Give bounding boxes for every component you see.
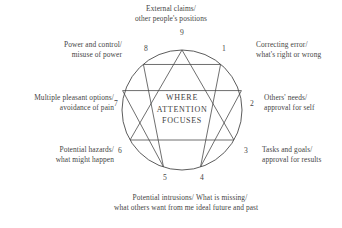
point-label-6-line-1: Potential hazards/	[8, 145, 114, 155]
point-label-4: What is missing/ ideal future and past	[196, 193, 300, 212]
point-label-9: External claims/ other people's position…	[96, 4, 246, 23]
point-label-3-line-1: Tasks and goals/	[262, 145, 342, 155]
point-label-5-line-1: Potential intrusions/	[76, 193, 194, 203]
point-numeral-8: 8	[140, 44, 152, 53]
point-label-2-line-1: Others' needs/	[264, 93, 342, 103]
center-caption-line-3: FOCUSES	[142, 115, 222, 127]
point-label-9-line-1: External claims/	[96, 4, 246, 14]
enneagram-diagram: WHERE ATTENTION FOCUSES 9 1 2 3 4 5 6 7 …	[0, 0, 342, 228]
point-label-7: Multiple pleasant options/ avoidance of …	[4, 93, 114, 112]
point-label-6: Potential hazards/ what might happen	[8, 145, 114, 164]
point-label-8: Power and control/ misuse of power	[26, 40, 122, 59]
point-label-5-line-2: what others want from me	[76, 203, 194, 213]
point-numeral-3: 3	[240, 146, 252, 155]
point-label-7-line-1: Multiple pleasant options/	[4, 93, 114, 103]
point-label-1: Correcting error/ what's right or wrong	[256, 40, 342, 59]
point-numeral-6: 6	[114, 146, 126, 155]
point-label-3: Tasks and goals/ approval for results	[262, 145, 342, 164]
point-label-9-line-2: other people's positions	[96, 14, 246, 24]
point-label-1-line-2: what's right or wrong	[256, 50, 342, 60]
point-label-8-line-1: Power and control/	[26, 40, 122, 50]
point-label-1-line-1: Correcting error/	[256, 40, 342, 50]
point-numeral-4: 4	[196, 173, 208, 182]
center-caption: WHERE ATTENTION FOCUSES	[142, 92, 222, 127]
point-label-5: Potential intrusions/ what others want f…	[76, 193, 194, 212]
point-label-7-line-2: avoidance of pain	[4, 103, 114, 113]
point-label-6-line-2: what might happen	[8, 155, 114, 165]
point-numeral-1: 1	[218, 44, 230, 53]
center-caption-line-1: WHERE	[142, 92, 222, 104]
center-caption-line-2: ATTENTION	[142, 104, 222, 116]
point-label-4-line-1: What is missing/	[196, 193, 300, 203]
point-label-2-line-2: approval for self	[264, 103, 342, 113]
point-numeral-2: 2	[246, 99, 258, 108]
point-numeral-9: 9	[176, 28, 188, 37]
point-label-8-line-2: misuse of power	[26, 50, 122, 60]
point-label-4-line-2: ideal future and past	[196, 203, 300, 213]
point-label-3-line-2: approval for results	[262, 155, 342, 165]
point-label-2: Others' needs/ approval for self	[264, 93, 342, 112]
point-numeral-5: 5	[159, 173, 171, 182]
